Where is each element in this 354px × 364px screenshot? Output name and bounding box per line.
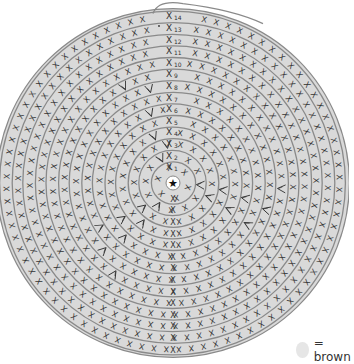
single-crochet-stitch: X	[130, 179, 139, 185]
single-crochet-stitch: X	[14, 187, 23, 193]
column-stitch: X	[166, 69, 172, 79]
column-stitch: X	[170, 276, 176, 285]
column-stitch: X	[166, 23, 172, 33]
round-number: 7	[174, 96, 178, 103]
round-number: 1	[174, 165, 178, 172]
single-crochet-stitch: X	[2, 173, 11, 179]
column-stitch: X	[170, 334, 176, 343]
single-crochet-stitch: X	[323, 185, 332, 191]
column-stitch: X	[170, 230, 176, 239]
star-icon: ★	[168, 177, 178, 190]
column-stitch: X	[170, 264, 176, 273]
single-crochet-stitch: X	[334, 187, 343, 193]
round-number: 4	[174, 130, 178, 137]
single-crochet-stitch: X	[300, 184, 309, 190]
round-number: 11	[174, 49, 182, 56]
column-stitch: X	[170, 206, 176, 215]
column-stitch: X	[170, 253, 176, 262]
column-stitch: X	[166, 11, 172, 21]
column-stitch: X	[170, 299, 176, 308]
round-number: 9	[174, 72, 178, 79]
single-crochet-stitch: X	[242, 183, 251, 189]
single-crochet-stitch: X	[95, 177, 104, 183]
single-crochet-stitch: X	[37, 176, 46, 182]
column-stitch: X	[170, 241, 176, 250]
column-stitch: X	[166, 58, 172, 68]
round-number: 13	[174, 26, 182, 33]
column-stitch: X	[166, 104, 172, 114]
column-stitch: X	[170, 218, 176, 227]
column-stitch: X	[166, 46, 172, 56]
round-number: 2	[174, 154, 178, 161]
single-crochet-stitch: X	[175, 344, 181, 353]
single-crochet-stitch: X	[2, 185, 11, 191]
tail-dot	[158, 25, 160, 27]
column-stitch: X	[170, 322, 176, 331]
single-crochet-stitch: X	[288, 184, 297, 190]
single-crochet-stitch: X	[230, 181, 239, 187]
column-stitch: X	[170, 346, 176, 355]
round-number: 3	[174, 142, 178, 149]
single-crochet-stitch: X	[72, 178, 81, 184]
single-crochet-stitch: X	[265, 182, 274, 188]
column-stitch: X	[166, 81, 172, 91]
single-crochet-stitch: X	[334, 174, 343, 180]
round-number: 8	[174, 84, 178, 91]
column-stitch: X	[166, 127, 172, 137]
round-number: 14	[174, 14, 182, 21]
single-crochet-stitch: X	[60, 174, 69, 180]
brown-swatch	[296, 342, 309, 358]
round-number: 12	[174, 38, 182, 45]
legend: = brown	[296, 336, 354, 364]
single-crochet-stitch: X	[49, 175, 58, 181]
column-stitch: X	[166, 35, 172, 45]
column-stitch: X	[170, 288, 176, 297]
single-crochet-stitch: X	[84, 175, 93, 182]
round-number: 6	[174, 107, 178, 114]
single-crochet-stitch: X	[26, 182, 35, 188]
single-crochet-stitch: X	[107, 179, 116, 185]
round-number: 5	[174, 119, 178, 126]
column-stitch: X	[166, 139, 172, 149]
column-stitch: X	[170, 195, 176, 204]
single-crochet-stitch: X	[323, 172, 332, 178]
single-crochet-stitch: X	[311, 178, 320, 184]
single-crochet-stitch: X	[253, 185, 262, 192]
column-stitch: X	[166, 151, 172, 161]
single-crochet-stitch: X	[14, 175, 23, 181]
single-crochet-stitch: X	[207, 181, 216, 187]
column-stitch: X	[166, 162, 172, 172]
legend-label: = brown	[314, 336, 354, 364]
column-stitch: X	[166, 116, 172, 126]
column-stitch: X	[166, 93, 172, 103]
single-crochet-stitch: X	[163, 344, 169, 353]
round-number: 10	[174, 61, 182, 68]
column-stitch: X	[170, 311, 176, 320]
